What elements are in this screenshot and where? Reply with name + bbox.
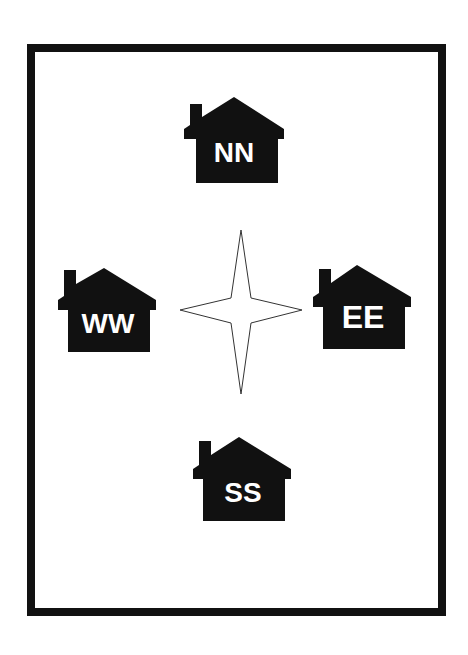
four-point-star-icon bbox=[178, 228, 304, 396]
house-label: NN bbox=[184, 137, 284, 169]
house-south: SS bbox=[193, 437, 293, 525]
house-label: WW bbox=[58, 308, 158, 340]
house-label: EE bbox=[313, 299, 413, 336]
house-north: NN bbox=[184, 97, 284, 185]
house-west: WW bbox=[58, 268, 158, 356]
house-label: SS bbox=[193, 477, 293, 509]
house-east: EE bbox=[313, 265, 413, 353]
